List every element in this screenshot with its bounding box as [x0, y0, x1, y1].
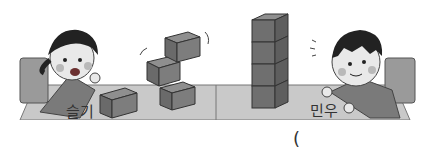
cube-tower: [252, 14, 288, 108]
right-child-name: 민우: [310, 99, 338, 120]
table-scene: [0, 0, 427, 120]
left-child-name: 슬기: [66, 100, 94, 121]
answer-blank: (: [293, 128, 300, 149]
illustration: 슬기 민우: [0, 0, 427, 120]
